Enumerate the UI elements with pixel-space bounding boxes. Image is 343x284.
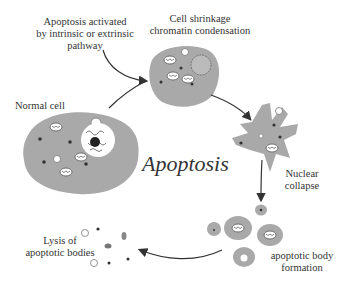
arrow-normal-to-shrinkage (109, 81, 146, 108)
label-line: apoptotic bodies (20, 247, 100, 259)
label-line: Apoptosis activated (30, 16, 140, 28)
label-activation: Apoptosis activated by intrinsic or extr… (30, 16, 140, 52)
arrow-shrinkage-to-collapse (211, 95, 250, 119)
label-line: collapse (277, 180, 327, 192)
label-line: Normal cell (15, 100, 65, 112)
diagram-title: Apoptosis (142, 151, 229, 177)
label-line: Cell shrinkage (140, 13, 260, 25)
label-line: Nuclear (277, 168, 327, 180)
collapsed-cell (232, 103, 298, 172)
label-line: formation (262, 262, 342, 274)
label-line: apoptotic body (262, 250, 342, 262)
label-line: by intrinsic or extrinsic (30, 28, 140, 40)
label-nuclear-collapse: Nuclear collapse (277, 168, 327, 192)
label-line: Lysis of (20, 235, 100, 247)
shrinkage-cell (149, 46, 219, 107)
label-line: chromatin condensation (140, 25, 260, 37)
apoptosis-diagram: Apoptosis activated by intrinsic or extr… (0, 0, 343, 284)
label-lysis: Lysis of apoptotic bodies (20, 235, 100, 259)
arrow-bodies-to-lysis (140, 250, 222, 259)
label-apoptotic-body: apoptotic body formation (262, 250, 342, 274)
label-line: pathway (30, 40, 140, 52)
arrow-collapse-to-bodies (261, 160, 262, 200)
label-normal-cell: Normal cell (15, 100, 65, 112)
label-shrinkage: Cell shrinkage chromatin condensation (140, 13, 260, 37)
normal-cell (23, 112, 138, 194)
arrow-activation-to-shrinkage (103, 50, 146, 81)
